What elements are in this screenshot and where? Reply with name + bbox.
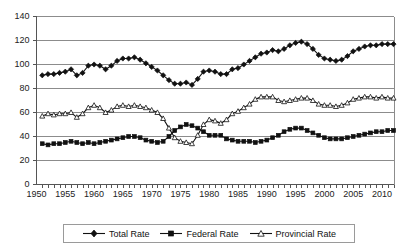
data-point-marker	[138, 57, 143, 62]
data-point-marker	[69, 139, 73, 143]
data-point-marker	[270, 48, 275, 53]
data-point-marker	[282, 130, 286, 134]
data-point-marker	[379, 94, 384, 99]
data-point-marker	[271, 136, 275, 140]
data-point-marker	[346, 136, 350, 140]
legend-item-provincial-rate: Provincial Rate	[249, 228, 337, 239]
data-point-marker	[109, 108, 114, 113]
data-point-marker	[86, 141, 90, 145]
data-point-marker	[311, 131, 315, 135]
data-point-marker	[138, 136, 142, 140]
data-point-marker	[288, 127, 292, 131]
x-axis-tick-label: 2005	[343, 189, 363, 199]
y-axis-tick-label: 40	[19, 131, 29, 141]
data-point-marker	[374, 43, 379, 48]
chart-container: 0204060801001201401950195519601965197019…	[0, 0, 418, 250]
data-point-marker	[173, 129, 177, 133]
data-point-marker	[219, 133, 223, 137]
data-point-marker	[92, 103, 97, 108]
data-point-marker	[242, 139, 246, 143]
data-point-marker	[391, 42, 396, 47]
data-point-marker	[363, 132, 367, 136]
data-point-marker	[345, 100, 350, 105]
y-axis-tick-label: 60	[19, 107, 29, 117]
data-point-marker	[248, 139, 252, 143]
data-point-marker	[149, 64, 154, 69]
data-point-marker	[293, 40, 298, 45]
data-point-marker	[236, 109, 241, 114]
data-point-marker	[316, 102, 321, 107]
data-point-marker	[63, 69, 68, 74]
data-point-marker	[184, 123, 188, 127]
series-federal-rate	[40, 123, 395, 147]
legend-label-total-rate: Total Rate	[109, 229, 150, 239]
data-point-marker	[241, 62, 246, 67]
data-point-marker	[253, 141, 257, 145]
data-point-marker	[236, 139, 240, 143]
data-point-marker	[328, 137, 332, 141]
data-point-marker	[369, 131, 373, 135]
y-axis-tick-label: 80	[19, 83, 29, 93]
data-point-marker	[178, 139, 183, 144]
data-point-marker	[132, 55, 137, 60]
data-point-marker	[196, 126, 200, 130]
data-point-marker	[120, 103, 125, 108]
data-point-marker	[392, 129, 396, 133]
data-point-marker	[45, 72, 50, 77]
data-point-marker	[218, 72, 223, 77]
data-point-marker	[40, 142, 44, 146]
data-point-marker	[121, 136, 125, 140]
data-point-marker	[195, 133, 200, 138]
y-axis-tick-label: 120	[14, 35, 29, 45]
data-point-marker	[317, 133, 321, 137]
data-point-marker	[235, 66, 240, 71]
data-point-marker	[63, 141, 67, 145]
data-point-marker	[368, 43, 373, 48]
data-point-marker	[207, 117, 212, 122]
data-point-marker	[299, 126, 303, 130]
data-point-marker	[167, 135, 171, 139]
x-axis-tick-label: 1965	[113, 189, 133, 199]
data-point-marker	[322, 56, 327, 61]
data-point-marker	[184, 80, 189, 85]
data-point-marker	[132, 135, 136, 139]
data-point-marker	[46, 111, 51, 116]
data-point-marker	[265, 138, 269, 142]
data-point-marker	[40, 73, 45, 78]
data-point-marker	[340, 137, 344, 141]
data-point-marker	[294, 126, 298, 130]
data-point-marker	[253, 55, 258, 60]
chart-legend: Total Rate Federal Rate Provincial Rate	[63, 224, 355, 243]
data-point-marker	[150, 139, 154, 143]
data-point-marker	[230, 138, 234, 142]
data-point-marker	[58, 142, 62, 146]
data-point-marker	[380, 130, 384, 134]
data-point-marker	[126, 56, 131, 61]
data-point-marker	[356, 46, 361, 51]
data-point-marker	[179, 125, 183, 129]
data-point-marker	[339, 57, 344, 62]
data-point-marker	[132, 103, 137, 108]
x-axis-tick-label: 1990	[257, 189, 277, 199]
data-point-marker	[241, 105, 246, 110]
x-axis-tick-label: 1970	[142, 189, 162, 199]
data-point-marker	[52, 142, 56, 146]
legend-square-icon	[159, 228, 183, 239]
y-axis-tick-label: 140	[14, 11, 29, 21]
data-point-marker	[334, 137, 338, 141]
data-point-marker	[103, 67, 108, 72]
x-axis-tick-label: 2010	[372, 189, 392, 199]
data-point-marker	[104, 139, 108, 143]
x-axis-tick-label: 1995	[286, 189, 306, 199]
data-point-marker	[362, 44, 367, 49]
data-point-marker	[287, 43, 292, 48]
series-total-rate	[40, 39, 396, 87]
y-axis-tick-label: 100	[14, 59, 29, 69]
data-point-marker	[212, 69, 217, 74]
data-point-marker	[379, 42, 384, 47]
data-point-marker	[323, 136, 327, 140]
x-axis-tick-label: 2000	[314, 189, 334, 199]
data-point-marker	[92, 142, 96, 146]
data-point-marker	[247, 58, 252, 63]
data-point-marker	[281, 46, 286, 51]
